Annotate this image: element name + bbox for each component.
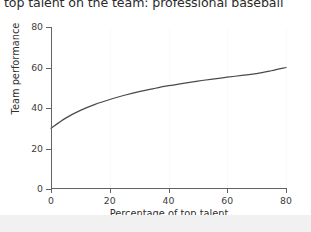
chart-title: top talent on the team: professional bas…: [4, 0, 311, 10]
x-tick-mark: [51, 188, 52, 193]
y-tick-mark: [46, 149, 51, 150]
y-tick-label: 60: [17, 63, 43, 73]
chart-title-band: top talent on the team: professional bas…: [0, 0, 311, 17]
y-axis-label: Team performance: [10, 0, 21, 144]
chart-screenshot: top talent on the team: professional bas…: [0, 0, 311, 232]
y-tick-label: 20: [17, 144, 43, 154]
y-tick-label: 40: [17, 103, 43, 113]
x-tick-label: 80: [271, 195, 301, 206]
line-series-path: [51, 68, 286, 129]
x-tick-mark: [169, 188, 170, 193]
y-tick-mark: [46, 108, 51, 109]
x-tick-mark: [227, 188, 228, 193]
x-tick-label: 20: [95, 195, 125, 206]
plot-area: [51, 27, 286, 189]
x-tick-label: 0: [36, 195, 66, 206]
x-tick-label: 60: [212, 195, 242, 206]
y-tick-mark: [46, 27, 51, 28]
x-tick-label: 40: [154, 195, 184, 206]
gridline-vertical: [286, 27, 287, 189]
footer-band: [0, 215, 311, 232]
x-tick-mark: [110, 188, 111, 193]
chart-figure: 020406080 020406080 Percentage of top ta…: [0, 17, 311, 215]
x-tick-mark: [286, 188, 287, 193]
y-axis-spine: [51, 27, 52, 189]
y-tick-mark: [46, 68, 51, 69]
y-tick-label: 80: [17, 22, 43, 32]
line-series-svg: [51, 27, 286, 189]
y-tick-label: 0: [17, 184, 43, 194]
